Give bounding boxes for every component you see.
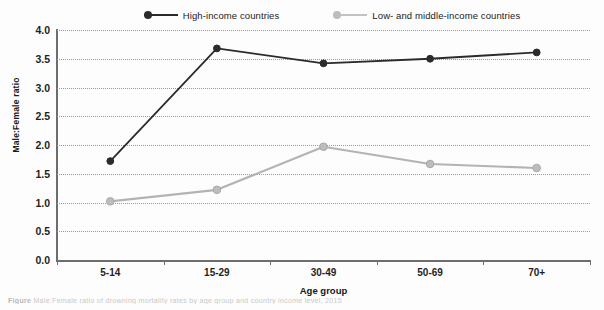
legend-label-low-middle-income: Low- and middle-income countries — [372, 10, 520, 21]
legend-swatch-high-income — [144, 10, 178, 20]
legend-swatch-low-middle-income — [333, 10, 367, 20]
figure-caption-text: Male:Female ratio of drowning mortality … — [33, 297, 341, 304]
chart-legend: High-income countries Low- and middle-in… — [0, 5, 604, 25]
x-axis-tick-label: 15-29 — [182, 267, 252, 278]
figure-caption: Figure Male:Female ratio of drowning mor… — [8, 297, 598, 304]
x-axis-tick-mark — [270, 261, 271, 265]
x-axis-tick-mark — [164, 261, 165, 265]
x-axis-tick-mark — [590, 261, 591, 265]
data-point[interactable] — [426, 160, 434, 168]
x-axis-tick-label: 30-49 — [289, 267, 359, 278]
data-point[interactable] — [320, 143, 328, 151]
y-axis-tick-label: 1.0 — [8, 197, 50, 209]
data-point[interactable] — [214, 45, 221, 52]
x-axis-tick-mark — [57, 261, 58, 265]
y-axis-title: Male:Female ratio — [11, 55, 21, 175]
x-axis-line — [56, 260, 591, 262]
data-point[interactable] — [107, 198, 115, 206]
series-line-low-middle-income — [110, 147, 536, 202]
x-axis-tick-label: 50-69 — [395, 267, 465, 278]
x-axis-tick-mark — [483, 261, 484, 265]
data-point[interactable] — [533, 164, 541, 172]
data-point[interactable] — [533, 49, 540, 56]
x-axis-title: Age group — [57, 285, 590, 296]
x-axis-tick-mark — [377, 261, 378, 265]
x-axis-tick-label: 70+ — [502, 267, 572, 278]
legend-item-low-middle-income[interactable]: Low- and middle-income countries — [333, 10, 520, 21]
data-point[interactable] — [320, 60, 327, 67]
legend-marker-low-middle-income — [333, 11, 341, 19]
data-point[interactable] — [107, 158, 114, 165]
data-point[interactable] — [213, 186, 221, 194]
legend-item-high-income[interactable]: High-income countries — [144, 10, 280, 21]
y-axis-tick-label: 4.0 — [8, 24, 50, 36]
y-axis-tick-label: 0.0 — [8, 254, 50, 266]
y-axis-tick-label: 0.5 — [8, 225, 50, 237]
series-plot — [57, 30, 590, 260]
figure-caption-prefix: Figure — [8, 297, 31, 304]
figure-container: High-income countries Low- and middle-in… — [0, 0, 604, 310]
data-point[interactable] — [427, 55, 434, 62]
x-axis-tick-label: 5-14 — [75, 267, 145, 278]
legend-marker-high-income — [144, 11, 152, 19]
legend-label-high-income: High-income countries — [183, 10, 280, 21]
